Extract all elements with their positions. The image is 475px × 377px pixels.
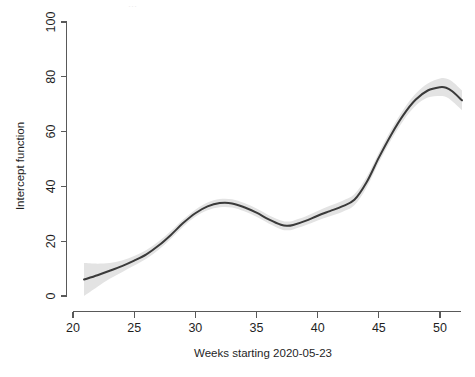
intercept-function-chart: ··· 020406080100 20253035404550 Intercep… bbox=[0, 0, 475, 377]
x-axis-title: Weeks starting 2020-05-23 bbox=[194, 347, 332, 359]
y-tick-label: 60 bbox=[44, 125, 58, 139]
x-tick-label: 40 bbox=[311, 321, 325, 335]
x-tick-label: 25 bbox=[127, 321, 141, 335]
x-tick-label: 50 bbox=[433, 321, 447, 335]
y-axis-title: Intercept function bbox=[14, 122, 26, 210]
y-tick-label: 80 bbox=[44, 70, 58, 84]
x-tick-label: 35 bbox=[250, 321, 264, 335]
plot-root: ··· 020406080100 20253035404550 Intercep… bbox=[0, 0, 475, 377]
y-tick-label: 100 bbox=[44, 12, 58, 33]
x-tick-label: 45 bbox=[372, 321, 386, 335]
y-tick-label: 0 bbox=[44, 292, 58, 299]
y-tick-label: 40 bbox=[44, 179, 58, 193]
x-tick-label: 30 bbox=[188, 321, 202, 335]
y-tick-label: 20 bbox=[44, 234, 58, 248]
cropped-title-remnant: ··· bbox=[128, 1, 137, 11]
x-tick-label: 20 bbox=[66, 321, 80, 335]
